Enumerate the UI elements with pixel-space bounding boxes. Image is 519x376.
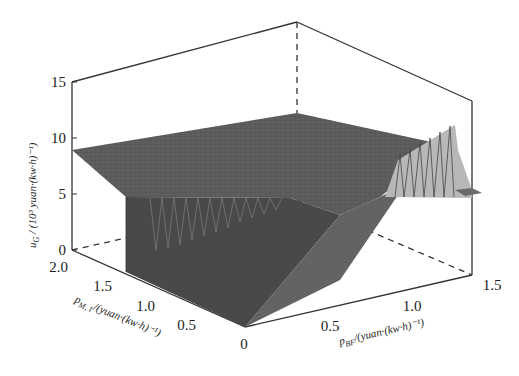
x-axis-label: pBF/(yuan·(kw·h)⁻¹)	[337, 316, 426, 350]
surface-plot-3d: 0 5 10 15 2.0 1.5 1.0 0.5 0 0.5 1.0 1.5 …	[0, 0, 519, 376]
z-axis-label: uG / (10³ yuan·(kw·h)⁻¹)	[26, 142, 41, 248]
z-ticks: 0 5 10 15	[51, 74, 77, 258]
z-tick-0: 0	[59, 242, 67, 258]
x-tick-1.0: 1.0	[403, 298, 422, 314]
y-tick-2.0: 2.0	[49, 259, 68, 275]
y-tick-1.5: 1.5	[93, 278, 112, 294]
z-tick-10: 10	[51, 130, 66, 146]
surface	[72, 113, 482, 327]
x-tick-1.5: 1.5	[483, 277, 502, 293]
y-tick-1.0: 1.0	[136, 298, 155, 314]
z-tick-15: 15	[51, 74, 66, 90]
top-back-left-edge	[72, 22, 297, 82]
z-tick-5: 5	[59, 186, 67, 202]
x-tick-0.5: 0.5	[321, 318, 340, 334]
top-back-right-edge	[297, 22, 472, 101]
x-tick-0: 0	[240, 336, 248, 352]
y-tick-0.5: 0.5	[177, 317, 196, 333]
